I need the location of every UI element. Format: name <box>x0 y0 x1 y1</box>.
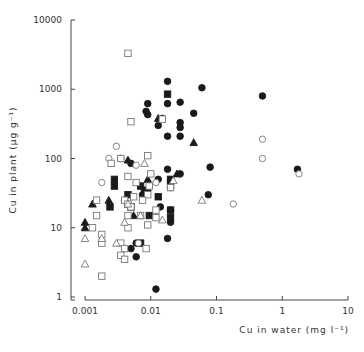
y-tick-label: 1 <box>56 292 62 302</box>
open-square-marker <box>128 118 134 124</box>
filled-circle-marker <box>177 124 184 131</box>
axes: 1101001000100000.0010.010.1110 <box>33 15 354 316</box>
open-square-marker <box>159 116 165 122</box>
filled-square-marker <box>164 91 170 97</box>
open-circle-marker <box>230 201 236 207</box>
filled-circle-marker <box>164 235 171 242</box>
open-square-marker <box>133 179 139 185</box>
filled-circle-marker <box>164 166 171 173</box>
filled-circle-marker <box>128 245 135 252</box>
open-square-marker <box>139 197 145 203</box>
open-square-marker <box>143 245 149 251</box>
filled-circle-marker <box>153 286 160 293</box>
data-points <box>81 50 302 292</box>
y-tick-label: 10 <box>51 223 63 233</box>
filled-square-marker <box>155 194 161 200</box>
filled-circle-marker <box>190 110 197 117</box>
open-circle-marker <box>296 171 302 177</box>
filled-circle-marker <box>177 99 184 106</box>
filled-square-marker <box>111 183 117 189</box>
x-tick-label: 0.001 <box>72 306 98 316</box>
open-square-marker <box>125 50 131 56</box>
scatter-chart: 1101001000100000.0010.010.1110 Cu in pla… <box>0 0 364 352</box>
open-circle-marker <box>259 136 265 142</box>
open-square-marker <box>125 173 131 179</box>
y-tick-label: 100 <box>45 154 62 164</box>
filled-triangle-marker <box>190 139 198 146</box>
open-triangle-marker <box>141 160 149 167</box>
x-tick-label: 10 <box>342 306 354 316</box>
open-square-marker <box>145 152 151 158</box>
open-square-marker <box>153 214 159 220</box>
open-circle-marker <box>99 179 105 185</box>
open-square-marker <box>93 212 99 218</box>
filled-circle-marker <box>164 78 171 85</box>
filled-circle-marker <box>155 122 162 129</box>
open-square-marker <box>167 184 173 190</box>
x-axis-title: Cu in water (mg l⁻¹) <box>239 325 349 335</box>
x-tick-label: 0.1 <box>209 306 223 316</box>
filled-circle-marker <box>144 100 151 107</box>
open-square-marker <box>146 183 152 189</box>
filled-circle-marker <box>144 111 151 118</box>
filled-square-marker <box>111 176 117 182</box>
open-square-marker <box>118 155 124 161</box>
open-triangle-marker <box>81 260 89 267</box>
open-triangle-marker <box>159 216 167 223</box>
open-square-marker <box>89 225 95 231</box>
filled-circle-marker <box>177 133 184 140</box>
open-circle-marker <box>259 155 265 161</box>
open-square-marker <box>148 171 154 177</box>
filled-square-marker <box>167 207 173 213</box>
filled-circle-marker <box>199 84 206 91</box>
x-tick-label: 0.01 <box>141 306 161 316</box>
open-triangle-marker <box>81 235 89 242</box>
filled-circle-marker <box>133 254 140 261</box>
y-tick-label: 1000 <box>39 84 62 94</box>
open-square-marker <box>121 245 127 251</box>
filled-circle-marker <box>259 93 266 100</box>
open-circle-marker <box>153 179 159 185</box>
filled-triangle-marker <box>105 196 113 203</box>
open-square-marker <box>153 207 159 213</box>
open-square-marker <box>99 273 105 279</box>
open-triangle-marker <box>198 196 206 203</box>
open-square-marker <box>93 197 99 203</box>
filled-circle-marker <box>207 164 214 171</box>
filled-square-marker <box>107 204 113 210</box>
filled-square-marker <box>167 214 173 220</box>
filled-circle-marker <box>205 191 212 198</box>
y-axis-title: Cu in plant (μg g⁻¹) <box>8 106 18 213</box>
open-square-marker <box>121 256 127 262</box>
open-circle-marker <box>113 143 119 149</box>
open-square-marker <box>145 222 151 228</box>
x-tick-label: 1 <box>279 306 285 316</box>
open-square-marker <box>125 212 131 218</box>
filled-circle-marker <box>164 133 171 140</box>
filled-circle-marker <box>164 100 171 107</box>
open-circle-marker <box>135 240 141 246</box>
open-square-marker <box>130 194 136 200</box>
y-tick-label: 10000 <box>33 15 62 25</box>
filled-square-marker <box>146 212 152 218</box>
open-square-marker <box>108 160 114 166</box>
open-triangle-marker <box>121 218 129 225</box>
open-circle-marker <box>133 162 139 168</box>
